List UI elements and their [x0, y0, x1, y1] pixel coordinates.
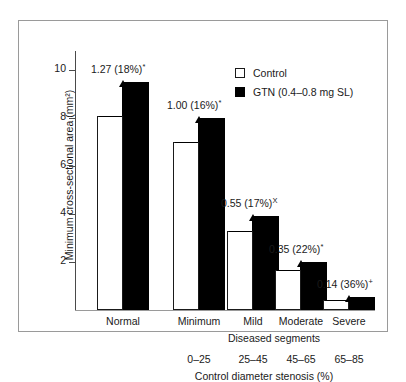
legend-swatch-control — [235, 68, 245, 78]
arrow-head — [119, 80, 127, 87]
bar-control-mild — [227, 231, 253, 310]
y-tick-mark — [69, 70, 75, 71]
legend-item-control: Control — [235, 67, 353, 79]
arrow-shaft — [122, 84, 123, 116]
diseased-segments-label: Diseased segments — [228, 332, 320, 344]
arrow-base — [175, 142, 198, 143]
bar-control-severe — [323, 300, 349, 310]
x-label-normal: Normal — [91, 315, 155, 327]
x-axis-line — [75, 310, 375, 311]
legend-item-gtn: GTN (0.4–0.8 mg SL) — [235, 86, 353, 98]
legend-label-control: Control — [253, 67, 287, 79]
y-tick-mark — [69, 262, 75, 263]
legend-label-gtn: GTN (0.4–0.8 mg SL) — [253, 86, 353, 98]
legend: Control GTN (0.4–0.8 mg SL) — [235, 67, 353, 105]
arrow-head — [195, 116, 203, 123]
annotation-severe: 0.14 (36%)+ — [317, 278, 373, 290]
bar-gtn-minimum — [199, 118, 225, 310]
annotation-normal: 1.27 (18%)* — [91, 63, 145, 75]
legend-swatch-gtn — [235, 87, 245, 97]
y-tick-label: 10 — [54, 62, 66, 74]
y-axis-line — [75, 51, 76, 310]
x-label-severe: Severe — [317, 315, 381, 327]
stenosis-range-label: 0–25 — [169, 353, 229, 365]
annotation-mild: 0.55 (17%)X — [221, 197, 277, 209]
bar-gtn-normal — [123, 82, 149, 310]
annotation-minimum: 1.00 (16%)* — [167, 99, 221, 111]
bar-control-normal — [97, 116, 123, 310]
arrow-head — [249, 214, 257, 221]
y-axis-title: Minimum cross-sectional area (mm²) — [63, 90, 75, 260]
bar-control-minimum — [173, 142, 199, 310]
stenosis-range-label: 65–85 — [319, 353, 379, 365]
x-axis-title: Control diameter stenosis (%) — [195, 370, 333, 382]
arrow-head — [345, 295, 353, 302]
arrow-head — [297, 260, 305, 267]
annotation-moderate: 0.35 (22%)* — [269, 243, 323, 255]
arrow-base — [229, 231, 252, 232]
figure-frame: 246810 Minimum cross-sectional area (mm²… — [18, 20, 388, 332]
arrow-base — [277, 270, 300, 271]
bar-gtn-severe — [349, 297, 375, 310]
bar-control-moderate — [275, 270, 301, 310]
arrow-shaft — [198, 120, 199, 142]
arrow-base — [99, 116, 122, 117]
